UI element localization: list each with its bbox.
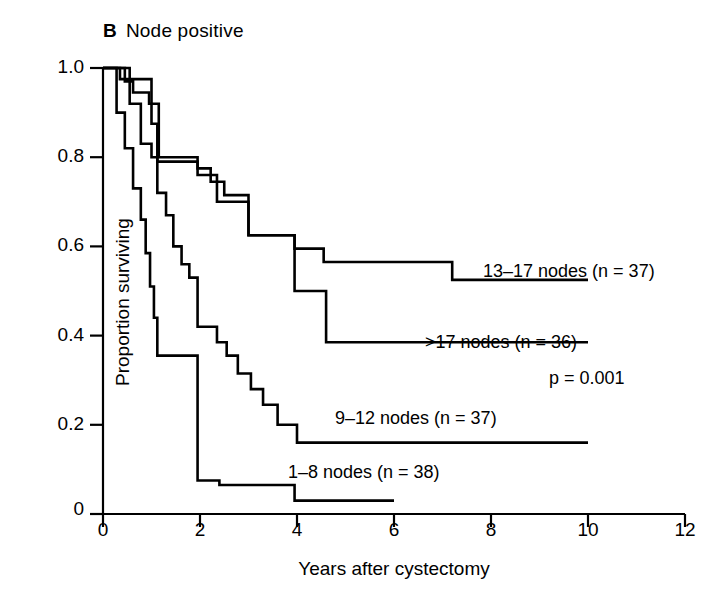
kaplan-meier-figure: BNode positive Proportion surviving Year… <box>0 0 723 603</box>
survival-curve-4 <box>103 68 394 501</box>
plot-area <box>0 0 723 603</box>
axis-lines <box>90 68 685 527</box>
survival-curves <box>103 68 588 501</box>
survival-curve-2 <box>103 68 588 342</box>
survival-curve-1 <box>103 68 588 280</box>
survival-curve-3 <box>103 68 588 443</box>
